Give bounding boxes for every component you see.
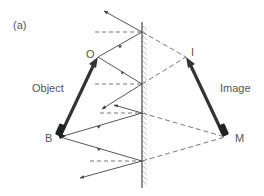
object-label: Object <box>32 83 64 94</box>
image-label: Image <box>220 83 251 94</box>
mirror <box>142 22 147 188</box>
point-label-m: M <box>235 133 244 144</box>
point-label-b: B <box>45 133 52 144</box>
plane-mirror-reflection-diagram: (a) Object Image O B I M <box>0 0 264 196</box>
point-label-i: I <box>191 47 194 58</box>
ray-diagram-svg <box>0 0 264 196</box>
object-arrow <box>55 57 98 139</box>
rays-from-object-bottom <box>60 105 142 178</box>
panel-label: (a) <box>13 20 26 31</box>
rays-from-object-top <box>98 11 142 109</box>
normal-lines <box>90 32 142 161</box>
image-arrow <box>186 57 229 137</box>
virtual-ray-extensions <box>142 32 225 161</box>
mirror-hatching <box>143 26 147 185</box>
point-label-o: O <box>86 49 95 60</box>
